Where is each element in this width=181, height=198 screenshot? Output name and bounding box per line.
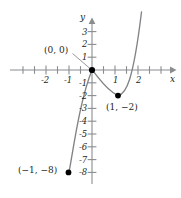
y-tick-label-neg4: -4 — [79, 117, 87, 126]
point-label-left-endpoint: (−1, −8) — [18, 166, 57, 175]
y-tick-label-neg7: -7 — [79, 156, 87, 165]
data-point-origin[interactable] — [89, 67, 95, 73]
y-tick-label-neg3: -3 — [79, 104, 87, 113]
data-point-left-endpoint[interactable] — [66, 170, 72, 176]
x-tick-label-2: 2 — [136, 76, 141, 85]
y-tick-label-3: 3 — [82, 28, 87, 37]
point-label-origin: (0, 0) — [44, 46, 68, 55]
x-axis-arrowhead — [170, 67, 177, 74]
x-axis-label: x — [170, 75, 175, 84]
y-axis-label: y — [80, 13, 85, 22]
graph-figure: y x -2 -1 1 2 3 2 1 -1 -2 -3 -4 -5 -6 -7… — [0, 0, 181, 198]
y-tick-label-neg6: -6 — [79, 143, 87, 152]
x-tick-label-neg2: -2 — [41, 76, 49, 85]
y-tick-label-neg2: -2 — [79, 92, 87, 101]
x-tick-label-neg1: -1 — [64, 76, 72, 85]
x-tick-label-1: 1 — [113, 76, 118, 85]
y-axis — [88, 18, 97, 185]
y-tick-label-neg5: -5 — [79, 130, 87, 139]
y-tick-label-1: 1 — [82, 53, 87, 62]
y-tick-label-neg8: -8 — [79, 168, 87, 177]
y-axis-arrowhead — [89, 18, 96, 25]
data-point-local-min[interactable] — [115, 93, 121, 99]
y-tick-label-2: 2 — [82, 40, 87, 49]
point-label-local-min: (1, −2) — [106, 103, 138, 112]
y-tick-label-neg1: -1 — [79, 79, 87, 88]
